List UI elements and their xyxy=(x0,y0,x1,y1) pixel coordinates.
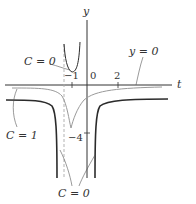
label-c1: C = 1 xyxy=(6,129,38,142)
solution-curves-diagram: t y 0 −1 2 −4 C = 0 y = 0 C = 1 C = 0 xyxy=(0,0,196,204)
label-c0-upper: C = 0 xyxy=(24,55,56,68)
leader-c0-lower-left xyxy=(60,150,72,186)
tick-label-origin: 0 xyxy=(90,70,96,81)
leader-y0 xyxy=(136,57,143,85)
tick-label-t-2: 2 xyxy=(114,70,120,81)
y-axis-label: y xyxy=(82,5,90,18)
t-axis-label: t xyxy=(177,78,182,91)
leader-c1 xyxy=(13,89,17,127)
dark-curve-right xyxy=(95,99,168,178)
upper-u-curve xyxy=(64,42,80,72)
label-y0: y = 0 xyxy=(128,45,158,58)
label-c0-lower: C = 0 xyxy=(58,187,90,200)
tick-label-y-neg4: −4 xyxy=(68,132,83,143)
